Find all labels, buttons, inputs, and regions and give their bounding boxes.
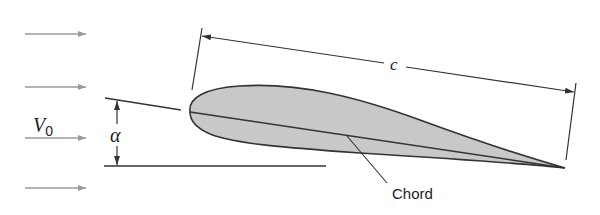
dimension-arrow-right-icon [406,67,574,92]
chord-label: Chord [392,185,433,202]
chord-length-label: c [390,55,398,74]
leading-edge-extension-line [192,28,202,90]
dimension-arrow-left-icon [202,36,384,63]
angle-label: α [110,124,121,146]
flow-arrows [25,34,86,188]
airfoil-diagram: V0 α Chord c [0,0,600,215]
airfoil-shape [190,85,565,168]
velocity-label: V0 [33,114,53,139]
trailing-edge-extension-line [566,83,576,160]
